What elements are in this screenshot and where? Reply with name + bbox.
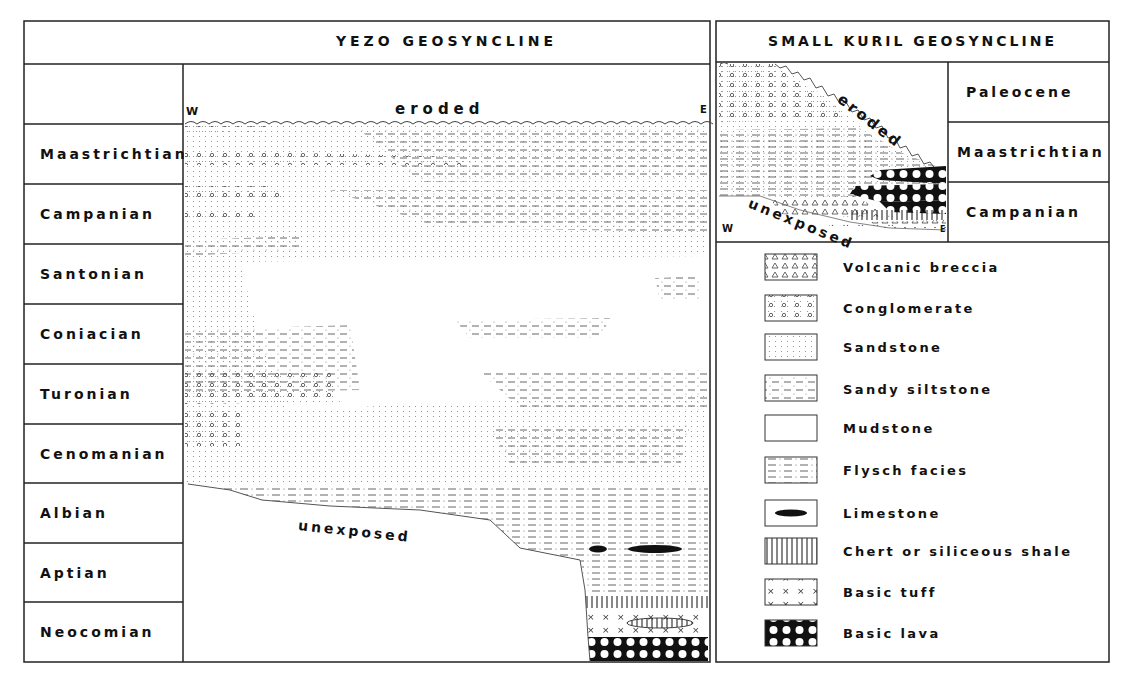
yezo-stage-cenomanian: Cenomanian — [40, 424, 168, 483]
legend-mudstone: Mudstone — [843, 421, 935, 436]
legend-basic-lava: Basic lava — [843, 626, 941, 641]
yezo-stage-maastrichtian: Maastrichtian — [40, 124, 188, 184]
yezo-stage-neocomian: Neocomian — [40, 602, 155, 662]
legend-conglomerate: Conglomerate — [843, 301, 975, 316]
yezo-stage-albian: Albian — [40, 483, 108, 543]
kuril-west-label: W — [722, 223, 733, 234]
kuril-stage-campanian: Campanian — [966, 182, 1081, 242]
kuril-stage-paleocene: Paleocene — [966, 62, 1074, 122]
kuril-stage-maastrichtian: Maastrichtian — [957, 122, 1105, 182]
yezo-stage-campanian: Campanian — [40, 184, 155, 244]
yezo-section — [185, 122, 713, 662]
yezo-title: YEZO GEOSYNCLINE — [183, 33, 710, 49]
legend-sandy-siltstone: Sandy siltstone — [843, 382, 993, 397]
legend-sandstone: Sandstone — [843, 340, 942, 355]
legend-limestone: Limestone — [843, 506, 941, 521]
legend-basic-tuff: Basic tuff — [843, 585, 937, 600]
legend-chert: Chert or siliceous shale — [843, 544, 1072, 559]
yezo-stage-coniacian: Coniacian — [40, 304, 144, 364]
kuril-east-label: E — [940, 225, 945, 234]
yezo-west-label: W — [186, 105, 198, 118]
yezo-stage-santonian: Santonian — [40, 244, 147, 304]
yezo-eroded-label: eroded — [395, 100, 485, 118]
legend-flysch-facies: Flysch facies — [843, 463, 968, 478]
kuril-title: SMALL KURIL GEOSYNCLINE — [716, 33, 1109, 49]
legend-swatches — [765, 254, 817, 646]
yezo-stage-turonian: Turonian — [40, 364, 133, 424]
yezo-east-label: E — [700, 104, 707, 115]
yezo-stage-aptian: Aptian — [40, 543, 110, 602]
legend-volcanic-breccia: Volcanic breccia — [843, 260, 1000, 275]
diagram-canvas: × — [0, 0, 1132, 682]
